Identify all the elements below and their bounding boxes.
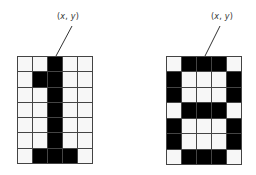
pixel-on bbox=[48, 72, 62, 86]
pixel-on bbox=[167, 119, 181, 133]
pixel-on bbox=[227, 119, 241, 133]
pixel-off bbox=[63, 72, 77, 86]
pixel-off bbox=[182, 119, 196, 133]
origin-label-digit-8: (x, y) bbox=[211, 12, 233, 21]
pixel-on bbox=[227, 72, 241, 86]
pixel-on bbox=[197, 150, 211, 164]
pixel-on bbox=[212, 150, 226, 164]
pixel-off bbox=[212, 88, 226, 102]
origin-label-digit-1: (x, y) bbox=[57, 12, 79, 21]
pixel-on bbox=[63, 149, 77, 163]
pixel-off bbox=[197, 88, 211, 102]
pixel-off bbox=[78, 133, 92, 147]
pixel-off bbox=[197, 72, 211, 86]
pixel-off bbox=[33, 57, 47, 71]
pixel-on bbox=[227, 88, 241, 102]
pixel-off bbox=[18, 57, 32, 71]
pixel-off bbox=[63, 118, 77, 132]
pixel-on bbox=[48, 118, 62, 132]
pixel-off bbox=[18, 118, 32, 132]
pixel-off bbox=[78, 103, 92, 117]
label-paren-close: ) bbox=[230, 12, 233, 21]
label-paren-close: ) bbox=[76, 12, 79, 21]
pixel-off bbox=[78, 57, 92, 71]
pixel-off bbox=[63, 103, 77, 117]
pixel-font-figure: (x, y) (x, y) bbox=[0, 0, 256, 175]
leader-line-digit-1 bbox=[56, 26, 72, 56]
pixel-on bbox=[48, 57, 62, 71]
pixel-off bbox=[18, 149, 32, 163]
pixel-on bbox=[212, 57, 226, 71]
pixel-off bbox=[33, 118, 47, 132]
pixel-off bbox=[78, 72, 92, 86]
pixel-on bbox=[182, 150, 196, 164]
pixel-off bbox=[78, 118, 92, 132]
pixel-on bbox=[48, 133, 62, 147]
pixel-on bbox=[167, 134, 181, 148]
pixel-on bbox=[33, 72, 47, 86]
pixel-on bbox=[182, 103, 196, 117]
pixel-off bbox=[227, 57, 241, 71]
pixel-off bbox=[63, 88, 77, 102]
pixel-off bbox=[78, 149, 92, 163]
pixel-off bbox=[212, 134, 226, 148]
pixel-off bbox=[167, 57, 181, 71]
pixel-on bbox=[167, 72, 181, 86]
bitmap-grid-digit-1 bbox=[17, 56, 93, 164]
pixel-off bbox=[33, 103, 47, 117]
pixel-off bbox=[18, 88, 32, 102]
pixel-off bbox=[33, 88, 47, 102]
pixel-off bbox=[212, 119, 226, 133]
pixel-off bbox=[167, 150, 181, 164]
pixel-on bbox=[212, 103, 226, 117]
pixel-on bbox=[227, 134, 241, 148]
pixel-off bbox=[18, 72, 32, 86]
pixel-off bbox=[212, 72, 226, 86]
bitmap-grid-digit-8 bbox=[166, 56, 242, 165]
pixel-on bbox=[48, 103, 62, 117]
pixel-off bbox=[197, 119, 211, 133]
pixel-on bbox=[182, 57, 196, 71]
pixel-off bbox=[33, 133, 47, 147]
pixel-on bbox=[167, 88, 181, 102]
pixel-off bbox=[63, 133, 77, 147]
pixel-off bbox=[182, 72, 196, 86]
pixel-off bbox=[227, 150, 241, 164]
pixel-off bbox=[63, 57, 77, 71]
pixel-off bbox=[18, 133, 32, 147]
leader-line-digit-8 bbox=[205, 26, 220, 56]
pixel-off bbox=[182, 134, 196, 148]
pixel-off bbox=[197, 134, 211, 148]
pixel-on bbox=[33, 149, 47, 163]
pixel-on bbox=[197, 103, 211, 117]
pixel-on bbox=[48, 149, 62, 163]
pixel-off bbox=[78, 88, 92, 102]
pixel-off bbox=[167, 103, 181, 117]
pixel-on bbox=[48, 88, 62, 102]
pixel-off bbox=[18, 103, 32, 117]
pixel-off bbox=[182, 88, 196, 102]
pixel-off bbox=[227, 103, 241, 117]
pixel-on bbox=[197, 57, 211, 71]
